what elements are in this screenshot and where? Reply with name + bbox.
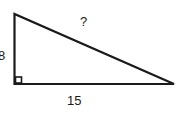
horizontal-leg-label: 15 — [67, 94, 81, 107]
triangle-shape — [15, 14, 175, 84]
triangle-diagram — [0, 0, 179, 115]
right-angle-marker — [16, 77, 22, 83]
vertical-leg-label: 8 — [0, 49, 5, 62]
hypotenuse-label: ? — [80, 15, 87, 28]
